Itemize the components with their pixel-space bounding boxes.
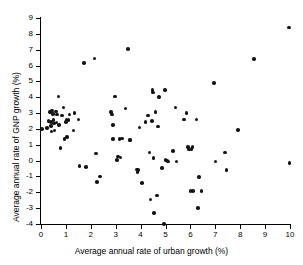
data-point xyxy=(182,118,186,122)
x-tick-label: 1 xyxy=(58,231,74,239)
data-point xyxy=(156,125,160,129)
x-tick xyxy=(166,225,167,229)
data-point xyxy=(84,165,88,169)
y-tick-label: -4 xyxy=(19,220,33,228)
data-point xyxy=(53,129,57,133)
x-tick-label: 6 xyxy=(182,231,198,239)
data-point xyxy=(124,107,128,111)
data-point xyxy=(77,118,81,122)
data-point xyxy=(62,106,66,110)
data-point xyxy=(68,113,72,117)
data-point xyxy=(174,106,178,110)
data-point xyxy=(129,138,133,142)
y-tick-label: 4 xyxy=(19,93,33,101)
x-tick xyxy=(141,225,142,229)
data-point xyxy=(57,123,61,127)
data-point xyxy=(175,160,179,164)
x-tick xyxy=(116,225,117,229)
data-point xyxy=(113,95,117,99)
y-tick xyxy=(36,34,40,35)
y-tick-label: 0 xyxy=(19,157,33,165)
x-tick xyxy=(91,225,92,229)
x-tick-label: 7 xyxy=(207,231,223,239)
data-point xyxy=(223,151,227,155)
data-point xyxy=(115,158,119,162)
data-point xyxy=(111,137,115,141)
data-point xyxy=(163,88,167,92)
data-point xyxy=(111,123,115,127)
data-point xyxy=(120,137,124,141)
data-point xyxy=(59,146,63,150)
plot-area xyxy=(41,18,290,224)
data-point xyxy=(166,160,170,164)
x-tick xyxy=(41,225,42,229)
x-tick xyxy=(190,225,191,229)
x-tick-label: 9 xyxy=(257,231,273,239)
data-point xyxy=(138,126,142,130)
x-tick-label: 3 xyxy=(108,231,124,239)
y-tick xyxy=(36,66,40,67)
y-tick xyxy=(36,97,40,98)
data-point xyxy=(185,111,189,115)
y-tick-label: 9 xyxy=(19,14,33,22)
data-point xyxy=(93,57,97,61)
x-tick xyxy=(265,225,266,229)
data-point xyxy=(40,127,44,131)
y-tick xyxy=(36,113,40,114)
data-point xyxy=(57,95,61,99)
y-tick xyxy=(36,224,40,225)
y-tick-label: 8 xyxy=(19,30,33,38)
x-tick-label: 10 xyxy=(282,231,298,239)
data-point xyxy=(94,152,98,156)
data-point xyxy=(236,128,240,132)
data-point xyxy=(144,120,148,124)
data-point xyxy=(65,135,69,139)
data-point xyxy=(151,91,155,95)
data-point xyxy=(146,114,150,118)
y-tick xyxy=(36,161,40,162)
data-point xyxy=(98,175,102,179)
y-tick xyxy=(36,18,40,19)
scatter-plot-figure: -4-3-2-10123456789 012345678910 Average … xyxy=(0,0,303,265)
data-point xyxy=(82,61,86,65)
y-tick-label: -3 xyxy=(19,204,33,212)
data-point xyxy=(152,156,156,160)
y-axis-label: Average annual rate of GNP growth (%) xyxy=(11,72,21,222)
data-point xyxy=(149,198,153,202)
data-point xyxy=(95,180,99,184)
data-point xyxy=(154,110,158,114)
data-point xyxy=(252,57,256,61)
y-tick xyxy=(36,176,40,177)
data-point xyxy=(150,119,154,123)
y-tick-label: -1 xyxy=(19,172,33,180)
x-tick xyxy=(240,225,241,229)
data-point xyxy=(78,164,82,168)
data-point xyxy=(148,151,152,155)
y-tick-label: 1 xyxy=(19,141,33,149)
data-point xyxy=(195,118,199,122)
data-point xyxy=(119,156,123,160)
data-point xyxy=(126,47,130,51)
x-tick-label: 8 xyxy=(232,231,248,239)
y-tick-label: 6 xyxy=(19,62,33,70)
data-point xyxy=(162,222,166,226)
data-point xyxy=(67,118,71,122)
x-tick-label: 4 xyxy=(133,231,149,239)
data-point xyxy=(288,161,292,165)
data-point xyxy=(171,149,175,153)
y-tick-label: 3 xyxy=(19,109,33,117)
data-point xyxy=(287,26,291,30)
data-point xyxy=(136,168,140,172)
data-point xyxy=(73,111,77,115)
y-tick-label: -2 xyxy=(19,188,33,196)
y-tick xyxy=(36,208,40,209)
data-point xyxy=(191,145,195,149)
data-point xyxy=(200,189,204,193)
y-tick xyxy=(36,145,40,146)
data-point xyxy=(55,113,59,117)
x-tick-label: 2 xyxy=(83,231,99,239)
x-tick-label: 5 xyxy=(158,231,174,239)
x-tick xyxy=(215,225,216,229)
y-tick xyxy=(36,129,40,130)
data-point xyxy=(140,181,144,185)
